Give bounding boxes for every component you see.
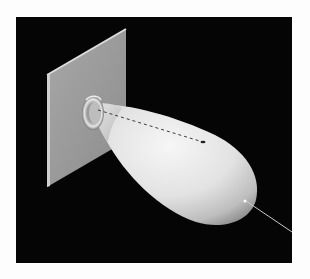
- axis-marker: [201, 141, 206, 143]
- figure-frame: [0, 0, 310, 279]
- feed-ring: [82, 96, 104, 130]
- radiation-pattern-diagram: [0, 0, 310, 279]
- lobe-tip-point: [244, 200, 247, 203]
